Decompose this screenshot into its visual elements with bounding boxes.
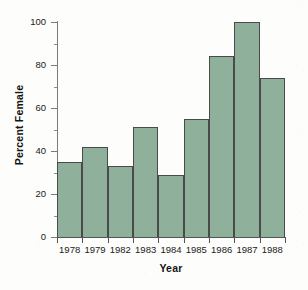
x-axis-tick-1982	[108, 238, 109, 243]
x-axis-tick-1986	[209, 238, 210, 243]
y-axis-tick-label-20: 20	[6, 189, 46, 199]
y-axis-tick-label-100: 100	[6, 17, 46, 27]
bar-chart-figure: Percent Female 020406080100 197819791982…	[0, 0, 308, 290]
bar-1982	[108, 166, 133, 237]
x-axis-tick-label-1988: 1988	[252, 245, 292, 255]
x-axis-tick-1985	[184, 238, 185, 243]
bar-1979	[82, 147, 107, 237]
x-axis-tick-1978	[57, 238, 58, 243]
x-axis-tick-1979	[82, 238, 83, 243]
x-axis-tick-1988	[260, 238, 261, 243]
y-axis-tick-label-60: 60	[6, 103, 46, 113]
bar-1978	[57, 162, 82, 237]
y-axis-minor-tick-70	[54, 87, 57, 88]
y-axis-title: Percent Female	[8, 0, 30, 250]
x-axis-title: Year	[57, 262, 285, 274]
bar-1983	[133, 127, 158, 237]
x-axis-tick-end	[285, 238, 286, 243]
x-axis-line	[57, 237, 286, 238]
bar-1984	[158, 175, 183, 237]
x-axis-tick-1983	[133, 238, 134, 243]
y-axis-tick-label-80: 80	[6, 60, 46, 70]
bar-1985	[184, 119, 209, 237]
bar-1987	[234, 22, 259, 237]
y-axis-tick-label-0: 0	[6, 232, 46, 242]
bar-1988	[260, 78, 285, 237]
x-axis-tick-1984	[158, 238, 159, 243]
y-axis-minor-tick-50	[54, 130, 57, 131]
y-axis-tick-100	[51, 22, 57, 23]
y-axis-tick-60	[51, 108, 57, 109]
y-axis-minor-tick-90	[54, 44, 57, 45]
bar-1986	[209, 56, 234, 237]
y-axis-tick-80	[51, 65, 57, 66]
y-axis-tick-label-40: 40	[6, 146, 46, 156]
y-axis-tick-40	[51, 151, 57, 152]
x-axis-tick-1987	[234, 238, 235, 243]
